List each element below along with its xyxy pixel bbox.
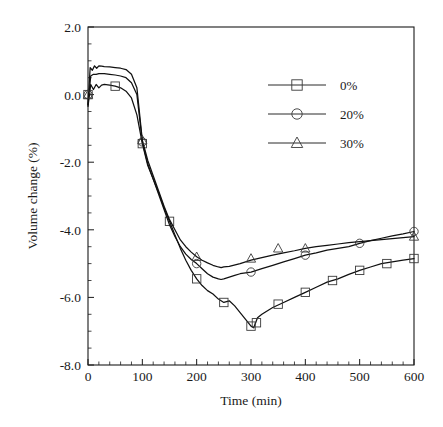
marker-0pct (220, 298, 228, 306)
y-tick-label: -2.0 (60, 155, 82, 170)
y-tick-label: -8.0 (60, 358, 82, 373)
marker-0pct (274, 300, 282, 308)
marker-20pct (247, 268, 255, 276)
x-tick-label: 500 (350, 369, 371, 384)
legend-label-0pct: 0% (340, 78, 358, 93)
y-tick-label: -6.0 (60, 290, 82, 305)
marker-30pct (274, 244, 283, 252)
x-tick-label: 300 (241, 369, 262, 384)
x-tick-label: 400 (295, 369, 316, 384)
marker-0pct (355, 266, 363, 274)
x-tick-label: 600 (404, 369, 425, 384)
legend-marker-0pct (292, 80, 302, 90)
data-series (83, 66, 418, 330)
x-tick-label: 200 (187, 369, 208, 384)
marker-30pct (246, 254, 255, 262)
legend-marker-20pct (292, 109, 302, 119)
legend-label-30pct: 30% (340, 136, 364, 151)
marker-0pct (192, 275, 200, 283)
x-axis-title: Time (min) (220, 393, 281, 408)
chart-legend: 0%20%30% (268, 78, 364, 151)
series-line-20pct (88, 74, 414, 280)
y-tick-label: 0.0 (64, 88, 81, 103)
x-tick-label: 0 (85, 369, 92, 384)
marker-0pct (301, 288, 309, 296)
plot-frame (88, 27, 414, 365)
y-tick-label: 2.0 (64, 20, 81, 35)
marker-0pct (383, 259, 391, 267)
y-tick-label: -4.0 (60, 223, 82, 238)
series-line-0pct (88, 84, 414, 327)
chart-figure: 01002003004005006002.00.0-2.0-4.0-6.0-8.… (0, 0, 443, 427)
y-axis-title: Volume change (%) (25, 143, 40, 250)
legend-label-20pct: 20% (340, 107, 364, 122)
line-chart: 01002003004005006002.00.0-2.0-4.0-6.0-8.… (0, 0, 443, 427)
legend-marker-30pct (291, 137, 302, 147)
marker-0pct (410, 254, 418, 262)
marker-0pct (328, 276, 336, 284)
marker-20pct (355, 239, 363, 247)
marker-0pct (111, 82, 119, 90)
marker-0pct (252, 319, 260, 327)
x-tick-label: 100 (132, 369, 153, 384)
